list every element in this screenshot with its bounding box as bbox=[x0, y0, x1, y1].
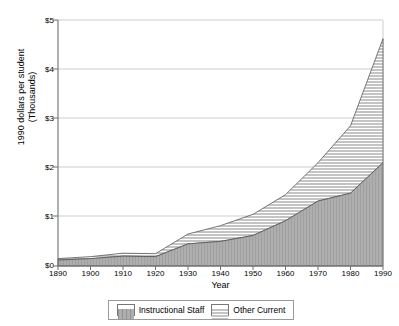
legend-label: Instructional Staff bbox=[139, 306, 205, 315]
chart-legend: Instructional Staff Other Current bbox=[108, 300, 294, 320]
legend-entry-instructional-staff: Instructional Staff bbox=[117, 304, 205, 316]
x-axis-title: Year bbox=[58, 280, 383, 291]
horizontal-hatch-swatch-icon bbox=[211, 304, 229, 316]
x-tick-label: 1990 bbox=[363, 269, 399, 278]
vertical-hatch-swatch-icon bbox=[117, 304, 135, 316]
legend-entry-other-current: Other Current bbox=[211, 304, 285, 316]
area-chart: 1990 dollars per student (Thousands) $5 … bbox=[0, 0, 399, 326]
legend-label: Other Current bbox=[233, 306, 285, 315]
y-axis-ticks bbox=[53, 20, 58, 266]
